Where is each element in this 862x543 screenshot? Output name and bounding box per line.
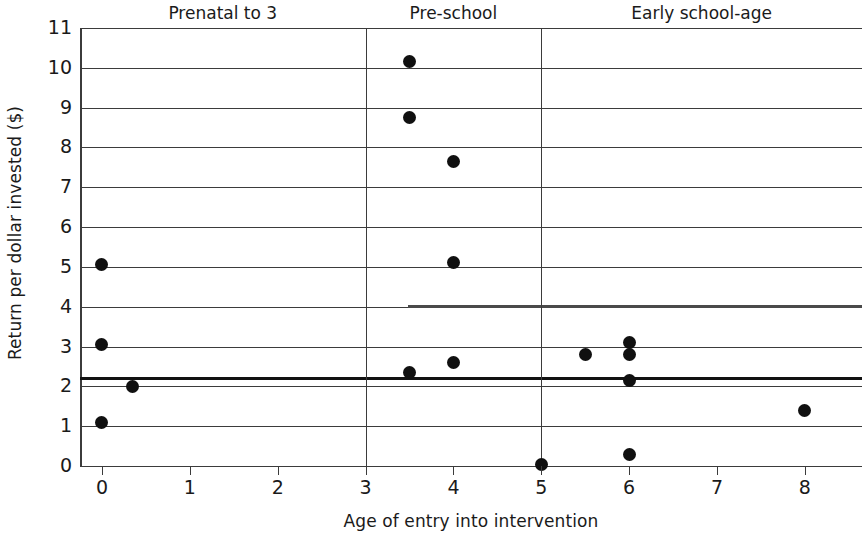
x-tick-mark [190, 466, 191, 475]
section-title: Prenatal to 3 [80, 2, 366, 24]
y-tick-label: 7 [28, 177, 72, 196]
x-tick-label: 2 [258, 478, 298, 497]
gridline-horizontal [80, 108, 862, 109]
y-tick-label: 3 [28, 337, 72, 356]
gridline-horizontal [80, 68, 862, 69]
data-point [798, 404, 811, 417]
y-axis-tick-labels: 01234567891011 [20, 28, 72, 466]
x-tick-label: 7 [697, 478, 737, 497]
x-tick-mark [102, 466, 103, 475]
gridline-horizontal [80, 267, 862, 268]
x-tick-label: 0 [82, 478, 122, 497]
x-tick-label: 3 [346, 478, 386, 497]
data-point [623, 448, 636, 461]
data-point [126, 380, 139, 393]
scatter-chart-figure: Return per dollar invested ($) 012345678… [0, 0, 862, 543]
data-point [579, 348, 592, 361]
gridline-horizontal [80, 347, 862, 348]
x-tick-label: 6 [609, 478, 649, 497]
x-tick-label: 5 [521, 478, 561, 497]
section-headers: Prenatal to 3Pre-schoolEarly school-age [80, 2, 862, 28]
data-point [403, 366, 416, 379]
y-tick-label: 10 [28, 58, 72, 77]
gridline-horizontal [80, 147, 862, 148]
y-tick-label: 2 [28, 376, 72, 395]
data-point [447, 155, 460, 168]
data-point [95, 258, 108, 271]
y-tick-label: 5 [28, 257, 72, 276]
reference-line [80, 377, 862, 380]
x-tick-mark [366, 466, 367, 475]
section-divider [541, 28, 542, 466]
y-tick-label: 4 [28, 297, 72, 316]
data-point [95, 338, 108, 351]
section-divider [366, 28, 367, 466]
gridline-horizontal [80, 386, 862, 387]
x-tick-label: 1 [170, 478, 210, 497]
data-point [403, 55, 416, 68]
y-tick-label: 8 [28, 137, 72, 156]
section-title: Early school-age [541, 2, 862, 24]
y-tick-label: 0 [28, 456, 72, 475]
x-tick-mark [629, 466, 630, 475]
x-axis-tick-labels: 012345678 [80, 466, 862, 506]
x-tick-mark [805, 466, 806, 475]
plot-area [80, 28, 862, 466]
y-tick-label: 11 [28, 18, 72, 37]
y-tick-label: 9 [28, 98, 72, 117]
gridline-horizontal [80, 426, 862, 427]
data-point [403, 111, 416, 124]
data-point [447, 356, 460, 369]
y-tick-label: 6 [28, 217, 72, 236]
x-tick-mark [717, 466, 718, 475]
gridline-horizontal [80, 227, 862, 228]
x-tick-label: 8 [785, 478, 825, 497]
x-axis-title: Age of entry into intervention [80, 511, 862, 531]
section-title: Pre-school [366, 2, 542, 24]
x-tick-label: 4 [433, 478, 473, 497]
y-tick-label: 1 [28, 416, 72, 435]
gridline-horizontal [80, 28, 862, 29]
x-tick-mark [278, 466, 279, 475]
x-tick-mark [541, 466, 542, 475]
data-point [623, 374, 636, 387]
x-tick-mark [453, 466, 454, 475]
data-point [623, 348, 636, 361]
gridline-horizontal [80, 187, 862, 188]
reference-line [408, 305, 862, 308]
